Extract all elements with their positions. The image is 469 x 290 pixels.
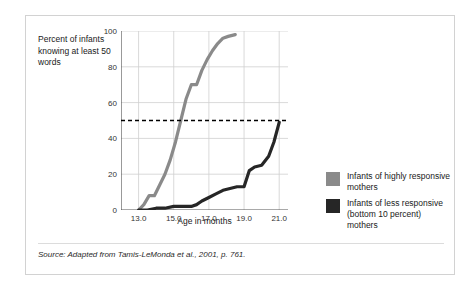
- horizontal-gridlines: [121, 31, 288, 174]
- chart-legend: Infants of highly responsive mothers Inf…: [326, 171, 454, 236]
- legend-swatch-highly-responsive: [326, 172, 340, 186]
- plot-area: 020406080100 13.015.017.019.021.0: [121, 31, 288, 210]
- chart-plot-svg: [121, 31, 288, 210]
- figure-card: Percent of infants knowing at least 50 w…: [25, 15, 455, 275]
- y-tick-label: 40: [108, 134, 121, 143]
- legend-item-highly-responsive: Infants of highly responsive mothers: [326, 171, 454, 193]
- legend-swatch-less-responsive: [326, 199, 340, 213]
- y-tick-label: 100: [104, 27, 121, 36]
- y-tick-label: 60: [108, 98, 121, 107]
- x-axis-title: Age in months: [121, 216, 288, 226]
- source-divider: [38, 243, 444, 244]
- y-tick-label: 80: [108, 62, 121, 71]
- y-axis-title: Percent of infants knowing at least 50 w…: [38, 34, 116, 69]
- chart-area: Percent of infants knowing at least 50 w…: [26, 16, 456, 231]
- y-tick-label: 0: [113, 206, 121, 215]
- source-note: Source: Adapted from Tamis-LeMonda et al…: [38, 250, 246, 259]
- legend-item-less-responsive: Infants of less responsive (bottom 10 pe…: [326, 198, 454, 231]
- legend-label-highly-responsive: Infants of highly responsive mothers: [347, 171, 454, 193]
- y-tick-label: 20: [108, 170, 121, 179]
- legend-label-less-responsive: Infants of less responsive (bottom 10 pe…: [347, 198, 454, 231]
